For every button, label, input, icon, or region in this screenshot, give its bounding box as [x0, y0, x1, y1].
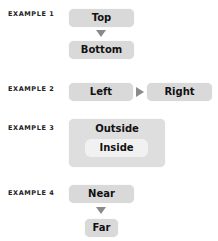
example-4-label: EXAMPLE 4 — [8, 189, 54, 197]
inside-box: Inside — [85, 139, 148, 157]
example-1-label: EXAMPLE 1 — [8, 10, 54, 18]
right-box: Right — [147, 83, 212, 101]
arrow-down-icon — [96, 30, 106, 37]
arrow-right-icon — [136, 87, 144, 97]
arrow-down-icon — [96, 207, 106, 214]
outside-box: Outside Inside — [69, 119, 165, 167]
outside-label: Outside — [69, 121, 165, 137]
near-box: Near — [69, 185, 134, 203]
bottom-box: Bottom — [69, 41, 134, 59]
left-box: Left — [69, 83, 133, 101]
example-3-label: EXAMPLE 3 — [8, 124, 54, 132]
far-box: Far — [85, 219, 118, 237]
example-2-label: EXAMPLE 2 — [8, 85, 54, 93]
top-box: Top — [69, 9, 134, 27]
